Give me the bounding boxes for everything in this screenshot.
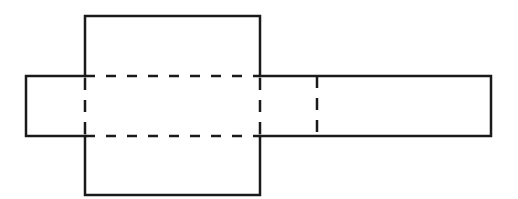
left-panel-outline	[26, 76, 85, 136]
right-strip-outline	[260, 76, 491, 136]
bottom-panel-outline	[85, 136, 260, 195]
box-net-diagram	[0, 0, 518, 199]
top-panel-outline	[85, 16, 260, 76]
